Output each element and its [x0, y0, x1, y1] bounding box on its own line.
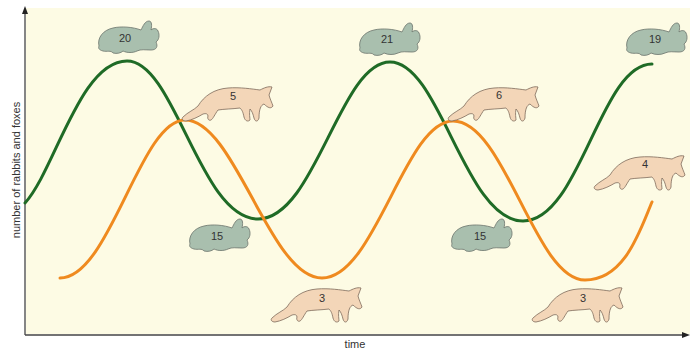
- x-axis-label: time: [345, 338, 366, 350]
- rabbit-count-label: 15: [474, 230, 486, 242]
- predator-prey-chart: 20 5 15 3 21 6 15 3 19 4: [0, 0, 696, 354]
- fox-count-label: 5: [230, 90, 236, 102]
- rabbit-count-label: 20: [119, 32, 131, 44]
- plot-background: [26, 8, 690, 334]
- rabbit-count-label: 19: [649, 33, 661, 45]
- fox-count-label: 4: [642, 158, 648, 170]
- rabbit-count-label: 15: [211, 230, 223, 242]
- fox-count-label: 3: [319, 292, 325, 304]
- fox-count-label: 6: [496, 89, 502, 101]
- fox-count-label: 3: [580, 292, 586, 304]
- rabbit-count-label: 21: [381, 33, 393, 45]
- y-axis-label: number of rabbits and foxes: [10, 102, 22, 238]
